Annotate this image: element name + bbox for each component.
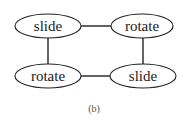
graph-diagram: slide rotate rotate slide (b): [0, 0, 188, 120]
node-label: rotate: [31, 68, 65, 84]
node-top-right: rotate: [111, 14, 173, 38]
node-top-left: slide: [15, 14, 81, 38]
node-bottom-right: slide: [110, 64, 176, 88]
node-label: slide: [129, 68, 158, 84]
figure-caption: (b): [88, 103, 100, 115]
node-bottom-left: rotate: [15, 64, 81, 88]
node-label: rotate: [125, 18, 159, 34]
node-label: slide: [34, 18, 63, 34]
